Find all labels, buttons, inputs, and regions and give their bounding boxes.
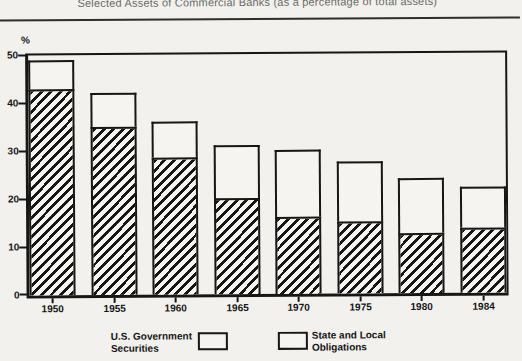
- y-axis-tick: [19, 150, 27, 152]
- legend-label-line: Obligations: [312, 341, 386, 353]
- segment-us-government-securities: [152, 157, 199, 294]
- title-divider-rule: [0, 16, 520, 21]
- y-axis-label: 30: [0, 145, 19, 156]
- chart-title: Selected Assets of Commercial Banks (as …: [0, 0, 516, 10]
- x-axis-label: 1984: [460, 300, 508, 311]
- segment-state-and-local-obligations: [90, 93, 136, 127]
- x-axis-label: 1950: [29, 303, 77, 314]
- legend-swatch-us-government-hatched: [198, 332, 228, 350]
- segment-us-government-securities: [91, 127, 138, 295]
- x-axis-label: 1980: [398, 301, 446, 312]
- y-axis-label: 40: [0, 97, 18, 108]
- bar-1984: [460, 186, 507, 292]
- bar-1970: [275, 150, 322, 294]
- bar-1980: [398, 178, 445, 293]
- segment-us-government-securities: [214, 198, 261, 294]
- x-axis-label: 1955: [91, 303, 139, 314]
- bar-1960: [152, 121, 199, 294]
- legend-label-line: State and Local: [312, 329, 386, 341]
- y-axis-tick: [18, 102, 26, 104]
- y-axis-label: 50: [0, 49, 18, 60]
- segment-us-government-securities: [460, 227, 506, 292]
- segment-state-and-local-obligations: [152, 121, 198, 157]
- segment-us-government-securities: [398, 233, 444, 293]
- segment-state-and-local-obligations: [275, 150, 321, 217]
- segment-state-and-local-obligations: [398, 178, 444, 233]
- bar-1965: [214, 145, 261, 294]
- segment-state-and-local-obligations: [28, 60, 74, 89]
- legend-swatch-state-local-open: [278, 332, 308, 350]
- segment-us-government-securities: [28, 89, 75, 295]
- x-axis-label: 1975: [337, 301, 385, 312]
- bar-1950: [28, 60, 75, 295]
- x-axis-label: 1960: [152, 302, 200, 313]
- segment-us-government-securities: [275, 217, 321, 294]
- legend-label-line: U.S. Government: [111, 330, 192, 342]
- y-axis-label: 20: [0, 193, 19, 204]
- plot-area: % 19501955196019651970197519801984010203…: [25, 50, 508, 298]
- y-axis-tick: [20, 293, 28, 295]
- scanned-chart-page: Selected Assets of Commercial Banks (as …: [0, 0, 518, 361]
- segment-state-and-local-obligations: [337, 161, 383, 221]
- y-axis-tick: [19, 198, 27, 200]
- y-axis-label: 10: [0, 241, 19, 252]
- segment-us-government-securities: [337, 221, 383, 293]
- x-axis-label: 1970: [275, 302, 323, 313]
- y-axis-tick: [18, 54, 26, 56]
- bar-1975: [337, 161, 384, 293]
- bar-1955: [90, 93, 137, 295]
- legend-label-us-government-securities: U.S. Government Securities: [111, 330, 192, 353]
- legend-label-state-and-local-obligations: State and Local Obligations: [312, 329, 386, 352]
- legend-label-line: Securities: [111, 342, 192, 354]
- y-axis-unit-label: %: [21, 34, 30, 45]
- y-axis-tick: [19, 246, 27, 248]
- x-axis-label: 1965: [214, 302, 262, 313]
- segment-state-and-local-obligations: [460, 186, 506, 227]
- segment-state-and-local-obligations: [214, 145, 260, 198]
- y-axis-label: 0: [0, 289, 20, 300]
